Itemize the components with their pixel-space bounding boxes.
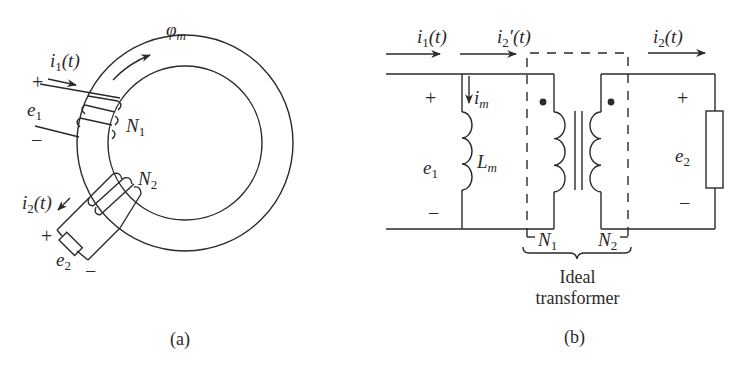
- n1b-sub: 1: [551, 238, 558, 253]
- toroid-core: [77, 35, 293, 251]
- flux-symbol: φ: [166, 19, 177, 40]
- i1b-sub: 1: [422, 35, 429, 50]
- ideal-transformer-boundary: [527, 53, 628, 237]
- im-sub: m: [479, 96, 488, 111]
- n2b-symbol: N: [598, 229, 611, 250]
- ideal-transformer-label: Ideal transformer: [520, 267, 635, 308]
- caption-a: (a): [170, 329, 190, 350]
- current-arrow-i1: [48, 79, 76, 85]
- n2-symbol: N: [138, 168, 151, 189]
- current-i2-label-b: i2(t): [653, 27, 683, 46]
- plus-sign-e2-b: +: [677, 88, 688, 108]
- turns-n1-label: N1: [538, 230, 557, 249]
- load-resistor: [706, 111, 723, 188]
- i1b-arg: (t): [429, 26, 447, 47]
- lm-sub: m: [488, 160, 497, 175]
- i2p-sub: 2: [502, 35, 509, 50]
- e1-sub: 1: [35, 108, 42, 123]
- flux-label: φm: [166, 20, 186, 39]
- minus-sign-e1-a: −: [31, 130, 42, 150]
- plus-sign-e1-b: +: [425, 88, 436, 108]
- current-arrow-i2: [58, 198, 70, 210]
- caption-b: (b): [564, 327, 585, 348]
- i1-sub: 1: [55, 59, 62, 74]
- diagram-canvas: [0, 0, 745, 369]
- secondary-winding-n2: [57, 173, 141, 260]
- winding-n1-label: N1: [126, 116, 145, 135]
- minus-sign-e2-b: −: [679, 193, 690, 213]
- turns-n2-label: N2: [598, 230, 617, 249]
- polarity-dot-primary: [540, 99, 547, 106]
- polarity-dot-secondary: [608, 99, 615, 106]
- emf-e1-label-b: e1: [423, 158, 438, 177]
- magnetizing-inductance-label: Lm: [477, 152, 497, 171]
- e2b-sub: 2: [683, 154, 690, 169]
- n1b-symbol: N: [538, 229, 551, 250]
- secondary-circuit: [590, 74, 723, 229]
- ideal-transformer-label-line1: Ideal: [520, 267, 635, 288]
- i2-sub: 2: [27, 201, 34, 216]
- lm-symbol: L: [477, 151, 488, 172]
- i2b-sub: 2: [658, 35, 665, 50]
- plus-sign-e1-a: +: [32, 72, 43, 92]
- i2-arg: (t): [34, 192, 52, 213]
- e2-sub: 2: [64, 258, 71, 273]
- i2b-arg: (t): [665, 26, 683, 47]
- minus-sign-e1-b: −: [428, 203, 439, 223]
- current-i2-label-a: i2(t): [22, 193, 52, 212]
- n1-symbol: N: [126, 115, 139, 136]
- ideal-transformer-label-line2: transformer: [520, 288, 635, 309]
- current-i1-label-b: i1(t): [417, 27, 447, 46]
- e1b-sub: 1: [431, 166, 438, 181]
- current-i1-label-a: i1(t): [50, 51, 80, 70]
- minus-sign-e2-a: −: [85, 261, 96, 281]
- n1-sub: 1: [139, 124, 146, 139]
- n2-sub: 2: [151, 177, 158, 192]
- emf-e2-label-a: e2: [56, 250, 71, 269]
- n2b-sub: 2: [611, 238, 618, 253]
- flux-sub: m: [177, 28, 186, 43]
- emf-e2-label-b: e2: [675, 146, 690, 165]
- emf-e1-label-a: e1: [27, 100, 42, 119]
- i2p-arg: (t): [513, 26, 531, 47]
- winding-n2-label: N2: [138, 169, 157, 188]
- plus-sign-e2-a: +: [41, 226, 52, 246]
- i1-arg: (t): [62, 50, 80, 71]
- magnetizing-current-label: im: [474, 88, 489, 107]
- current-i2prime-label: i2′(t): [497, 27, 531, 46]
